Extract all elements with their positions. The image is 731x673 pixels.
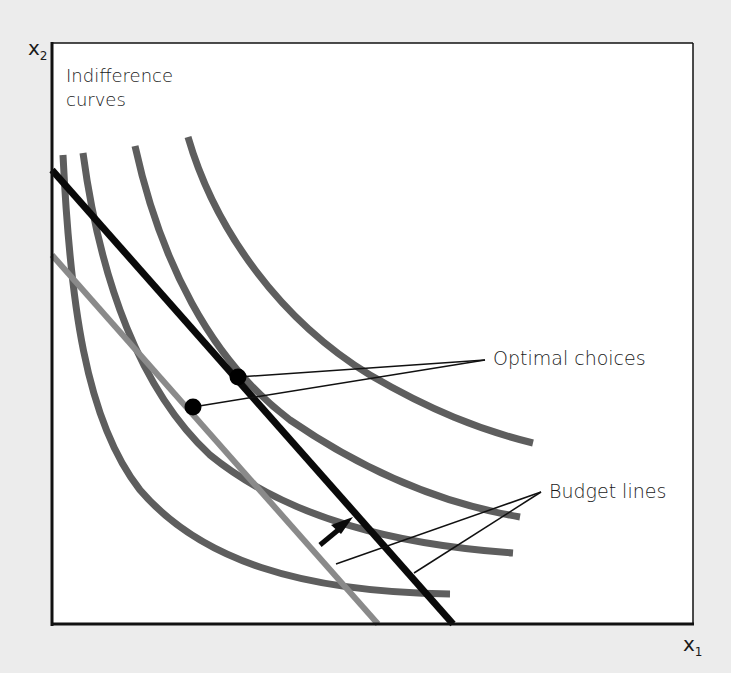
optimal-point-new bbox=[230, 369, 247, 386]
optimal-choices-label: Optimal choices bbox=[493, 347, 646, 369]
x-axis-label-text: x bbox=[683, 632, 695, 656]
optimal-point-original bbox=[185, 399, 202, 416]
indifference-curves-label: Indifference curves bbox=[66, 64, 173, 112]
y-axis-label: x2 bbox=[28, 36, 47, 63]
indifference-curves-label-line1: Indifference bbox=[66, 64, 173, 88]
indifference-curves-label-line2: curves bbox=[66, 88, 173, 112]
y-axis-label-text: x bbox=[28, 36, 40, 60]
budget-lines-label: Budget lines bbox=[549, 480, 666, 502]
x-axis-label: x1 bbox=[683, 632, 702, 659]
y-axis-label-subscript: 2 bbox=[40, 49, 48, 63]
x-axis-label-subscript: 1 bbox=[695, 645, 703, 659]
